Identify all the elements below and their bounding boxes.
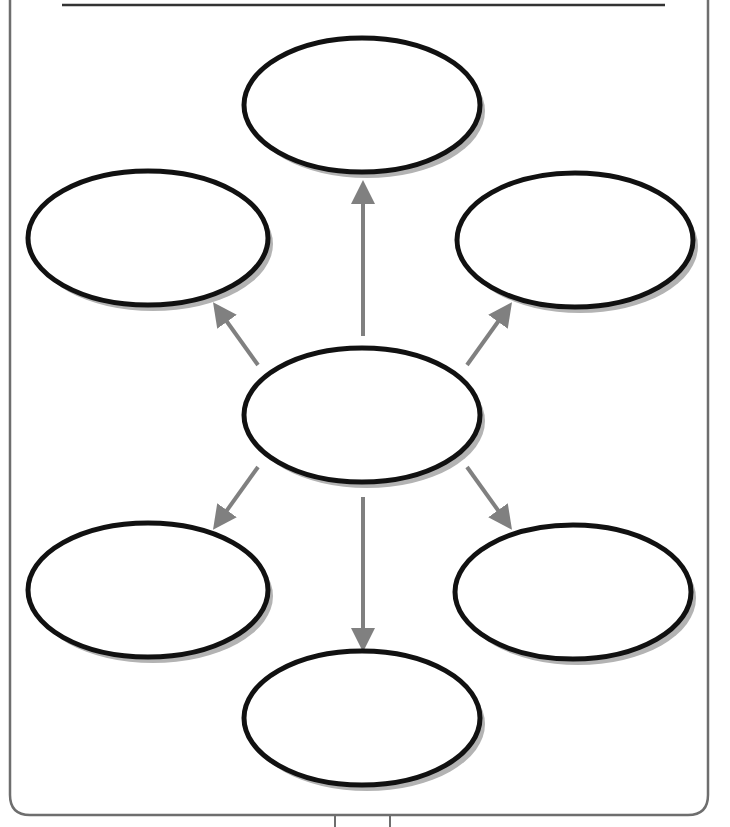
bubble-outline [244,348,480,482]
bubble-outline [457,173,693,307]
bubble-outline [455,525,691,659]
bubble-outline [28,523,268,657]
bubble-outline [28,171,268,305]
bubble-top[interactable] [244,38,485,178]
bubble-bottom[interactable] [244,651,485,791]
bubble-center[interactable] [244,348,485,488]
bubble-outline [244,651,480,785]
web-diagram [0,0,730,827]
bubble-upper-left[interactable] [28,171,273,311]
arrow-center-to-lower-left [220,467,258,520]
bubble-lower-right[interactable] [455,525,696,665]
arrow-center-to-upper-left [220,312,258,365]
frame-tab [335,815,390,827]
arrow-center-to-lower-right [467,467,505,520]
bubbles-group [28,38,698,791]
bubble-upper-right[interactable] [457,173,698,313]
bubble-outline [244,38,480,172]
arrow-center-to-upper-right [467,312,505,365]
bubble-lower-left[interactable] [28,523,273,663]
